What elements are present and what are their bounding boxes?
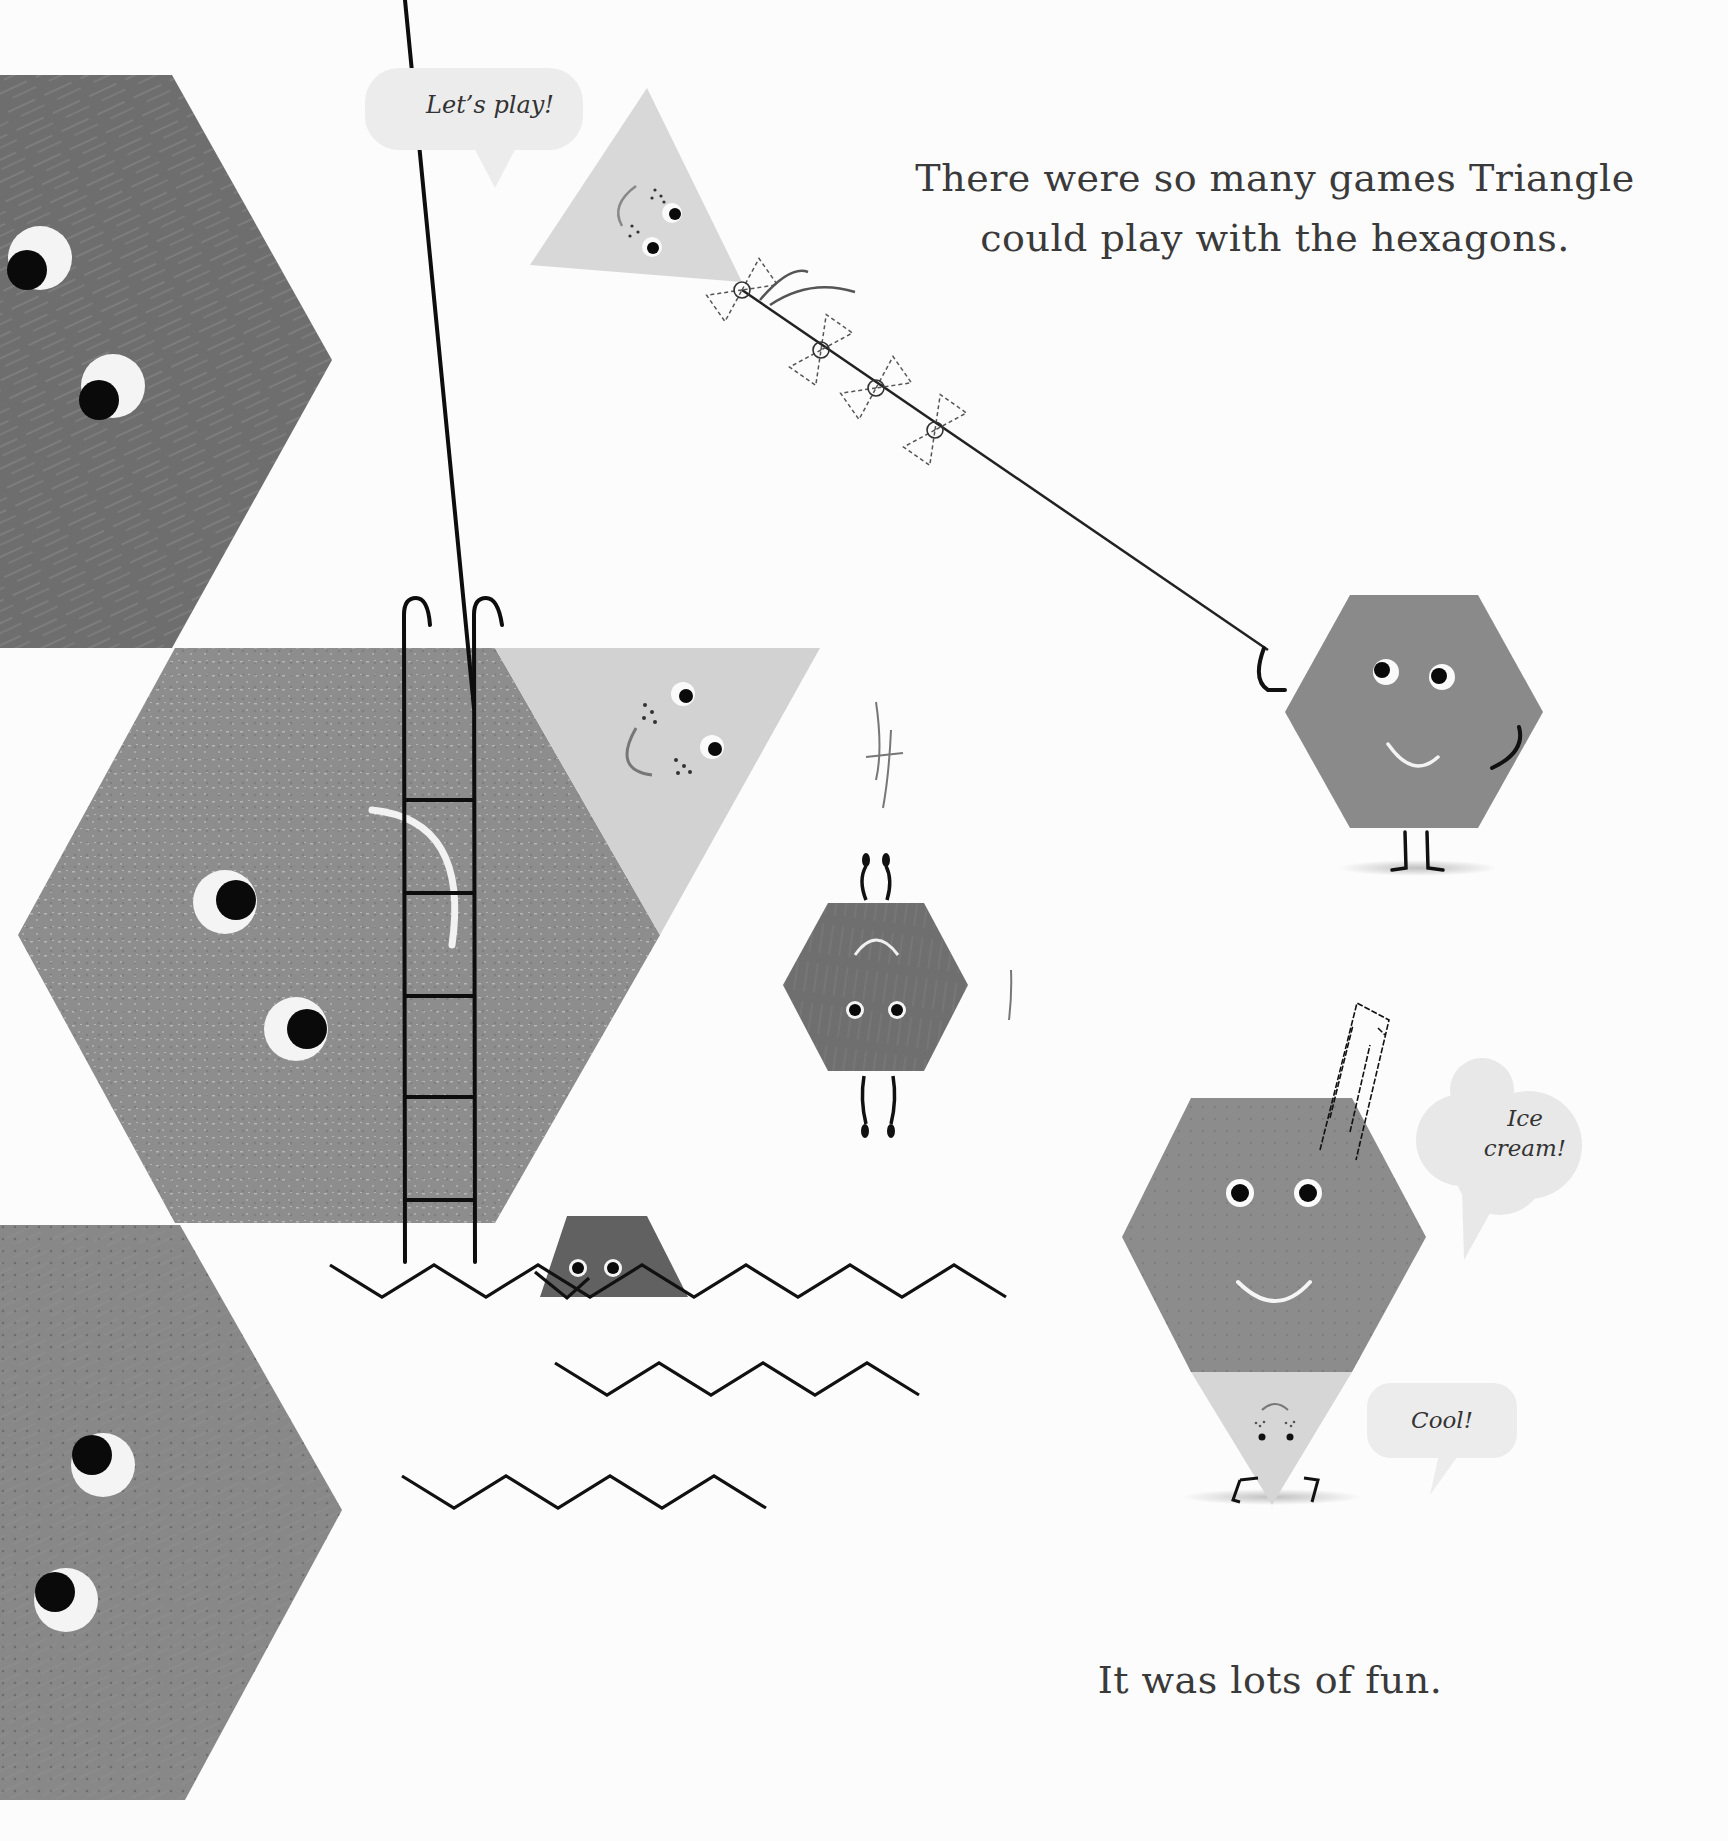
cool-bubble — [1367, 1383, 1517, 1495]
cone-triangle — [1191, 1372, 1352, 1505]
cool-text: Cool! — [1372, 1405, 1512, 1435]
kite-string — [707, 259, 1268, 650]
bow-2 — [790, 315, 853, 386]
ice-cream-text: Ice cream! — [1440, 1103, 1610, 1163]
hexagon-top-left — [0, 75, 332, 648]
pupil — [7, 250, 47, 290]
picture-book-page: There were so many games Triangle could … — [0, 0, 1728, 1841]
lets-play-bubble — [365, 68, 583, 188]
narration-top-line-1: There were so many games Triangle — [905, 148, 1645, 208]
hexagon-swimming — [540, 1216, 688, 1297]
ice-cream-text-line-1: Ice — [1440, 1103, 1610, 1133]
narration-top-line-2: could play with the hexagons. — [905, 208, 1645, 268]
lets-play-text: Let’s play! — [370, 90, 610, 120]
narration-bottom: It was lots of fun. — [1080, 1655, 1460, 1705]
hexagon-kite-holder — [1259, 595, 1543, 876]
illustration — [0, 0, 1728, 1841]
narration-top: There were so many games Triangle could … — [905, 148, 1645, 268]
bow-4 — [904, 395, 967, 466]
arm-left — [1259, 648, 1285, 690]
ice-cream-text-line-2: cream! — [1440, 1133, 1610, 1163]
hexagon-bottom-left — [0, 1225, 342, 1800]
hexagon-diving — [783, 702, 1011, 1138]
water-waves — [330, 1265, 1006, 1508]
